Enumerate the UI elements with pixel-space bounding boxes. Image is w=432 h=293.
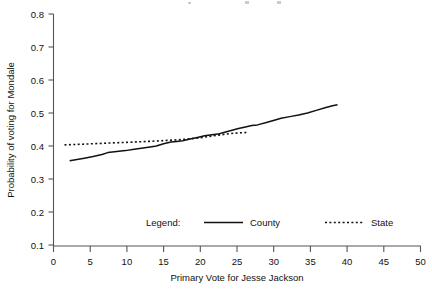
x-axis-tick-labels: 0 5 10 15 20 25 30 35 40 45 50 [51, 256, 426, 267]
x-tick-label: 50 [415, 256, 426, 267]
chart-legend: Legend: County State [146, 217, 393, 228]
series-line-county [70, 105, 338, 161]
y-tick-label: 0.7 [31, 42, 44, 53]
x-tick-label: 5 [88, 256, 93, 267]
series-line-state [65, 132, 248, 144]
y-tick-label: 0.2 [31, 207, 44, 218]
x-tick-label: 20 [195, 256, 206, 267]
x-tick-label: 0 [51, 256, 56, 267]
legend-title: Legend: [146, 217, 180, 228]
x-tick-label: 40 [342, 256, 353, 267]
x-axis-title: Primary Vote for Jesse Jackson [170, 272, 303, 283]
legend-entry-state: State [371, 217, 393, 228]
x-tick-label: 15 [158, 256, 169, 267]
y-tick-label: 0.5 [31, 108, 44, 119]
y-tick-label: 0.8 [31, 9, 44, 20]
y-tick-label: 0.1 [31, 240, 44, 251]
x-tick-label: 10 [122, 256, 133, 267]
y-axis-tick-labels: 0.8 0.7 0.6 0.5 0.4 0.3 0.2 0.1 [31, 9, 44, 251]
scan-artifacts [188, 1, 281, 4]
x-tick-label: 45 [379, 256, 390, 267]
line-chart: 0.8 0.7 0.6 0.5 0.4 0.3 0.2 0.1 0 5 [0, 0, 432, 293]
x-axis-ticks [54, 246, 421, 252]
y-axis-title: Probability of voting for Mondale [5, 62, 16, 198]
y-tick-label: 0.4 [31, 141, 44, 152]
y-axis-ticks [49, 14, 54, 245]
legend-entry-county: County [250, 217, 280, 228]
y-tick-label: 0.6 [31, 75, 44, 86]
x-tick-label: 30 [268, 256, 279, 267]
x-tick-label: 25 [232, 256, 243, 267]
chart-figure: 0.8 0.7 0.6 0.5 0.4 0.3 0.2 0.1 0 5 [0, 0, 432, 293]
x-tick-label: 35 [305, 256, 316, 267]
axis-lines [54, 14, 422, 246]
y-tick-label: 0.3 [31, 174, 44, 185]
